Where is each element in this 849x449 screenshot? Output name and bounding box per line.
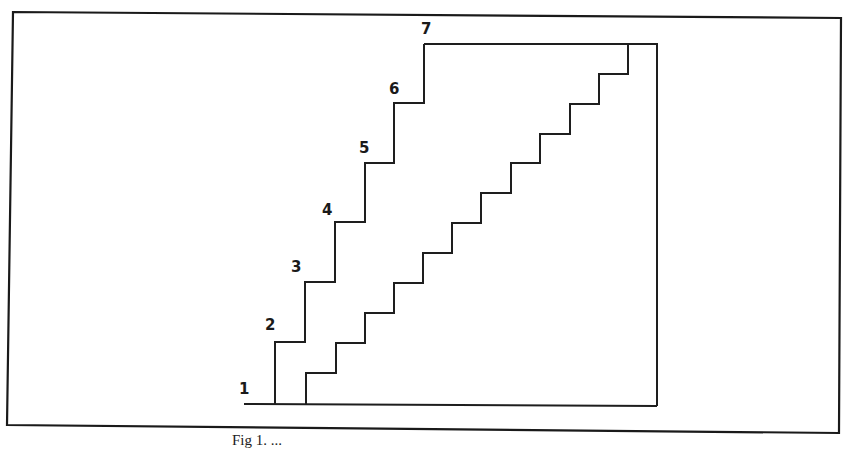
figure-caption: Fig 1. ... xyxy=(232,432,282,449)
step-label-1: 1 xyxy=(239,380,249,398)
step-label-6: 6 xyxy=(389,80,399,98)
landing-outline xyxy=(424,44,657,406)
floor-line xyxy=(244,404,657,406)
step-label-4: 4 xyxy=(322,201,332,219)
step-label-5: 5 xyxy=(359,139,369,157)
step-label-2: 2 xyxy=(265,316,275,334)
outer-stair xyxy=(275,44,424,404)
inner-stair xyxy=(306,44,628,404)
step-label-7: 7 xyxy=(421,20,431,38)
step-label-3: 3 xyxy=(291,258,301,276)
